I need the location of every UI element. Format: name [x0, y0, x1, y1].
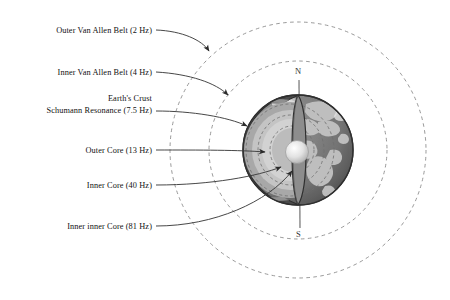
leader-outer-van-allen — [156, 30, 209, 51]
label-inner-inner-core: Inner inner Core (81 Hz) — [67, 221, 152, 232]
label-outer-core: Outer Core (13 Hz) — [85, 145, 152, 156]
label-south-pole: S — [296, 229, 301, 239]
label-north-pole: N — [295, 66, 301, 76]
diagram-svg — [0, 0, 450, 300]
label-outer-van-allen-belt: Outer Van Allen Belt (2 Hz) — [56, 25, 152, 36]
leader-inner-van-allen — [156, 72, 228, 95]
label-inner-van-allen-belt: Inner Van Allen Belt (4 Hz) — [58, 67, 152, 78]
inner-inner-core-sphere — [286, 141, 309, 164]
label-schumann-resonance: Schumann Resonance (7.5 Hz) — [47, 105, 152, 116]
leader-schumann — [156, 111, 247, 126]
diagram-canvas: Outer Van Allen Belt (2 Hz) Inner Van Al… — [0, 0, 450, 300]
label-earths-crust: Earth's Crust — [108, 93, 152, 104]
label-inner-core: Inner Core (40 Hz) — [87, 180, 152, 191]
